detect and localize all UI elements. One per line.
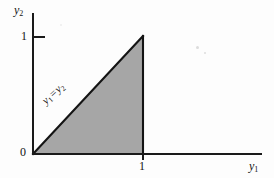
y-axis-title-subscript: 2 [19,9,23,18]
x-axis-title: y1 [249,160,258,172]
y-axis-tick-1 [34,36,45,38]
x-axis-tick-label-1: 1 [139,160,145,172]
scan-artifact-speck [196,46,199,49]
x-axis-title-subscript: 1 [254,165,258,174]
x-axis-line [32,153,262,155]
y-axis-title: y2 [14,4,23,16]
scan-artifact-speck [60,24,62,26]
y-axis-tick-label-1: 1 [21,30,27,42]
scan-artifact-speck [204,52,206,54]
origin-label: 0 [20,146,26,158]
chart-figure: 1 0 1 y2 y1 y1=y2 [0,0,274,178]
shaded-triangle-region [0,0,274,178]
y-axis-line [32,13,34,155]
